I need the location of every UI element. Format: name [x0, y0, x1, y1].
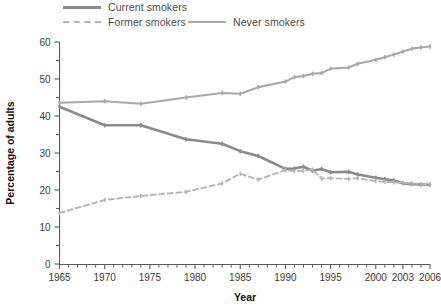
x-tick-label: 1995 — [319, 272, 342, 283]
x-axis-tick-labels: 1965197019751980198519901995200020032006 — [48, 272, 441, 283]
x-tick-label: 1990 — [274, 272, 297, 283]
x-tick-label: 2000 — [365, 272, 388, 283]
y-tick-label: 20 — [39, 185, 51, 196]
y-tick-label: 40 — [39, 111, 51, 122]
series-layer — [60, 44, 431, 215]
y-tick-label: 60 — [39, 37, 51, 48]
series-line-current — [60, 107, 431, 185]
x-tick-label: 1975 — [139, 272, 162, 283]
x-tick-label: 1965 — [48, 272, 71, 283]
y-tick-label: 30 — [39, 148, 51, 159]
y-axis-tick-labels: 0102030405060 — [39, 37, 51, 270]
x-tick-label: 1985 — [229, 272, 252, 283]
plot-area: 0102030405060 19651970197519801985199019… — [0, 0, 441, 307]
x-tick-label: 1980 — [184, 272, 207, 283]
y-tick-label: 0 — [45, 259, 51, 270]
y-tick-label: 10 — [39, 222, 51, 233]
series-line-never — [60, 46, 431, 103]
y-tick-label: 50 — [39, 74, 51, 85]
series-line-former — [60, 170, 431, 213]
smoking-status-line-chart: Current smokers Former smokers Never smo… — [0, 0, 441, 307]
x-tick-label: 1970 — [94, 272, 117, 283]
y-axis: 0102030405060 — [39, 37, 59, 270]
plot-svg: 0102030405060 19651970197519801985199019… — [0, 0, 441, 307]
x-axis-title: Year — [234, 291, 256, 303]
y-axis-ticks — [55, 42, 60, 264]
x-tick-label: 2006 — [419, 272, 441, 283]
x-axis: 1965197019751980198519901995200020032006 — [48, 264, 441, 283]
y-axis-title: Percentage of adults — [4, 101, 16, 204]
x-tick-label: 2003 — [392, 272, 415, 283]
